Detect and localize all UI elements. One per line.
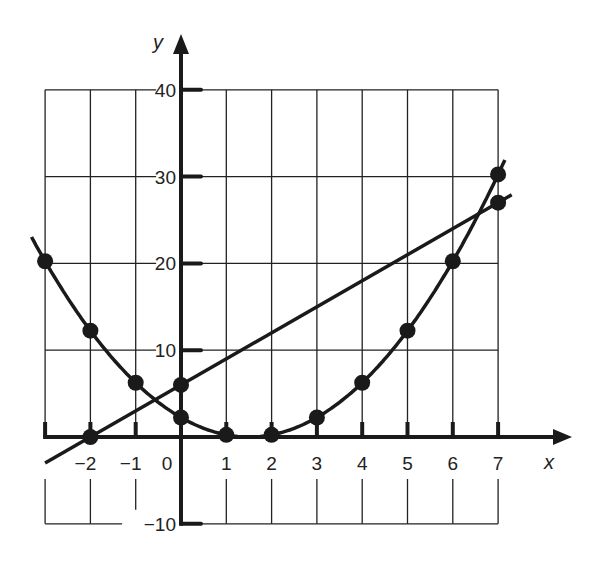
parabola-point — [82, 323, 98, 339]
y-axis-arrow-icon — [173, 34, 189, 54]
x-tick-label: 1 — [221, 453, 232, 474]
x-tick-label: −1 — [120, 453, 142, 474]
parabola-point — [309, 409, 325, 425]
parabola-point — [490, 166, 506, 182]
y-tick-label: 30 — [155, 167, 176, 188]
parabola-curve — [32, 160, 505, 437]
parabola-point — [173, 409, 189, 425]
parabola-point — [445, 253, 461, 269]
y-tick-label: 40 — [155, 80, 176, 101]
x-tick-label: 2 — [266, 453, 277, 474]
line-point — [490, 195, 506, 211]
y-tick-label: −10 — [144, 514, 176, 535]
x-tick-label: 0 — [162, 453, 173, 474]
x-tick-label: 6 — [448, 453, 459, 474]
x-tick-label: −2 — [75, 453, 97, 474]
x-tick-label: 4 — [357, 453, 368, 474]
linear-line — [45, 195, 512, 463]
x-tick-label: 5 — [402, 453, 413, 474]
line-point — [82, 429, 98, 445]
parabola-point — [218, 427, 234, 443]
tick-labels: −2−10123456740302010−10xy — [75, 31, 555, 535]
line-point — [173, 377, 189, 393]
x-axis-label: x — [543, 451, 555, 473]
x-tick-label: 3 — [312, 453, 323, 474]
parabola-point — [37, 253, 53, 269]
chart-canvas: −2−10123456740302010−10xy — [0, 0, 606, 567]
parabola-point — [354, 375, 370, 391]
y-axis-label: y — [151, 31, 164, 53]
parabola-point — [264, 427, 280, 443]
y-tick-label: 10 — [155, 340, 176, 361]
parabola-point — [400, 323, 416, 339]
y-tick-label: 20 — [155, 253, 176, 274]
parabola-point — [128, 375, 144, 391]
x-tick-label: 7 — [493, 453, 504, 474]
x-axis-arrow-icon — [553, 429, 572, 445]
